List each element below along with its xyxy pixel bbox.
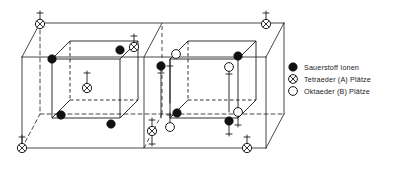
oxygen-ion	[48, 55, 57, 64]
tetrahedral-site-center	[82, 83, 91, 92]
spinel-structure-diagram: Sauerstoff Ionen Tetraeder (A) Plätze Ok…	[0, 0, 398, 170]
legend-label-tetrahedral: Tetraeder (A) Plätze	[304, 75, 371, 84]
tetrahedral-site	[129, 42, 138, 51]
tetrahedral-site	[242, 143, 251, 152]
oxygen-ion	[116, 46, 125, 55]
crossed-circle-icon	[289, 75, 298, 84]
octahedral-site	[166, 123, 175, 132]
oxygen-ion	[234, 52, 243, 61]
tetrahedral-site	[261, 19, 270, 28]
crystal-structure-figure: Sauerstoff Ionen Tetraeder (A) Plätze Ok…	[0, 0, 398, 170]
open-circle-icon	[289, 87, 298, 96]
oxygen-ion	[107, 120, 116, 129]
tetrahedral-site	[147, 126, 156, 135]
octahedral-site	[225, 63, 234, 72]
octahedral-site	[234, 108, 243, 117]
legend-label-octahedral: Oktaeder (B) Plätze	[304, 87, 370, 96]
oxygen-ion	[57, 111, 66, 120]
octahedral-site	[172, 50, 181, 59]
filled-circle-icon	[289, 63, 298, 72]
legend-label-oxygen: Sauerstoff Ionen	[304, 63, 359, 72]
oxygen-ion	[157, 62, 166, 71]
oxygen-ion	[173, 109, 182, 118]
tetrahedral-site	[17, 143, 26, 152]
tetrahedral-site	[35, 19, 44, 28]
oxygen-ion	[225, 117, 234, 126]
figure-background	[0, 0, 398, 170]
